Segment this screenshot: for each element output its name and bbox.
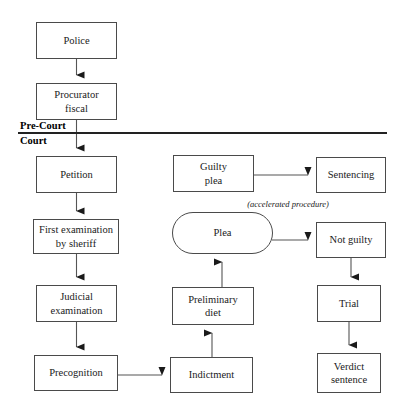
node-petition-label: Petition xyxy=(60,168,93,181)
node-sentencing[interactable]: Sentencing xyxy=(316,157,386,193)
annotation-accelerated-procedure: (accelerated procedure) xyxy=(228,199,348,209)
node-not-guilty-label: Not guilty xyxy=(330,233,373,246)
node-procurator-fiscal[interactable]: Procurator fiscal xyxy=(36,83,117,120)
node-petition[interactable]: Petition xyxy=(36,156,117,193)
node-plea-label: Plea xyxy=(213,226,231,239)
node-first-examination-label: First examination by sheriff xyxy=(39,223,113,249)
node-guilty-plea[interactable]: Guilty plea xyxy=(173,155,254,192)
node-sentencing-label: Sentencing xyxy=(328,168,375,181)
node-verdict-sentence-label: Verdict sentence xyxy=(331,360,367,386)
node-judicial-examination-label: Judicial examination xyxy=(51,290,103,316)
node-trial[interactable]: Trial xyxy=(317,285,381,322)
node-first-examination[interactable]: First examination by sheriff xyxy=(33,219,119,254)
node-police-label: Police xyxy=(63,34,89,47)
pre-court-court-divider xyxy=(18,132,387,134)
node-verdict-sentence[interactable]: Verdict sentence xyxy=(317,353,381,393)
node-judicial-examination[interactable]: Judicial examination xyxy=(36,285,117,322)
node-indictment-label: Indictment xyxy=(189,368,235,381)
node-trial-label: Trial xyxy=(339,297,359,310)
flowchart-canvas: Pre-Court Court Police Procurator fiscal… xyxy=(0,0,405,410)
node-police[interactable]: Police xyxy=(36,22,117,59)
node-guilty-plea-label: Guilty plea xyxy=(200,160,227,186)
node-precognition[interactable]: Precognition xyxy=(34,355,118,391)
node-indictment[interactable]: Indictment xyxy=(170,357,253,393)
node-procurator-fiscal-label: Procurator fiscal xyxy=(54,88,98,114)
node-preliminary-diet[interactable]: Preliminary diet xyxy=(172,287,254,325)
node-preliminary-diet-label: Preliminary diet xyxy=(188,293,238,319)
node-precognition-label: Precognition xyxy=(49,366,103,379)
node-plea[interactable]: Plea xyxy=(172,212,273,254)
band-label-court: Court xyxy=(20,135,47,146)
node-not-guilty[interactable]: Not guilty xyxy=(316,222,386,258)
band-label-pre-court: Pre-Court xyxy=(20,120,66,131)
